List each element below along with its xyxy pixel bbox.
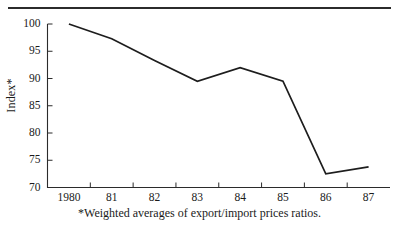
x-tick-label: 83 [192, 191, 204, 203]
data-line-index [69, 24, 369, 174]
y-tick-label: 85 [29, 99, 41, 111]
line-chart-plot: 707580859095100 198081828384858687 [0, 0, 399, 229]
y-tick-label: 90 [29, 72, 41, 84]
chart-axes [48, 24, 391, 188]
y-tick-label: 100 [23, 17, 41, 29]
x-tick-label: 85 [277, 191, 289, 203]
data-series-group [69, 24, 369, 174]
x-tick-label: 87 [363, 191, 375, 203]
y-axis-ticks [48, 24, 53, 188]
axis-lines [48, 24, 391, 188]
y-tick-label: 95 [29, 44, 41, 56]
chart-footnote: *Weighted averages of export/import pric… [0, 206, 399, 221]
figure-container: Index* 707580859095100 19808182838485868… [0, 0, 399, 229]
y-tick-label: 75 [29, 153, 41, 165]
x-tick-label: 82 [149, 191, 161, 203]
y-tick-label: 80 [29, 126, 41, 138]
y-axis-tick-labels: 707580859095100 [23, 17, 41, 193]
x-tick-label: 84 [234, 191, 246, 203]
x-tick-label: 86 [320, 191, 332, 203]
x-axis-ticks [90, 183, 347, 188]
x-tick-label: 1980 [57, 191, 80, 203]
x-axis-tick-labels: 198081828384858687 [57, 191, 374, 203]
y-tick-label: 70 [29, 181, 41, 193]
x-tick-label: 81 [106, 191, 118, 203]
